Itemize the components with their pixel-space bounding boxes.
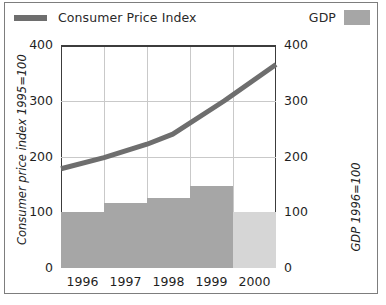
legend-line-swatch-icon	[14, 15, 47, 21]
y-tick-right-200: 200	[284, 149, 324, 164]
y-tick-left-0: 0	[13, 260, 53, 275]
y-tick-right-0: 0	[284, 260, 324, 275]
legend-label-gdp: GDP	[309, 10, 336, 25]
legend-item-cpi: Consumer Price Index	[14, 10, 197, 25]
chart-legend: Consumer Price Index GDP	[14, 10, 370, 30]
y-tick-left-400: 400	[13, 37, 53, 52]
y-tick-left-100: 100	[13, 204, 53, 219]
plot-wrapper	[61, 45, 276, 268]
legend-label-cpi: Consumer Price Index	[58, 10, 197, 25]
y-tick-left-200: 200	[13, 149, 53, 164]
line-series-cpi	[61, 45, 276, 268]
x-tick-2000: 2000	[230, 274, 280, 289]
legend-item-gdp: GDP	[309, 10, 370, 25]
y-tick-right-400: 400	[284, 37, 324, 52]
y-axis-title-right: GDP 1996=100	[349, 147, 363, 267]
y-tick-right-100: 100	[284, 204, 324, 219]
legend-box-swatch-icon	[344, 10, 370, 25]
y-tick-right-300: 300	[284, 93, 324, 108]
y-tick-left-300: 300	[13, 93, 53, 108]
chart-container: Consumer Price Index GDP Consumer price …	[0, 0, 386, 305]
